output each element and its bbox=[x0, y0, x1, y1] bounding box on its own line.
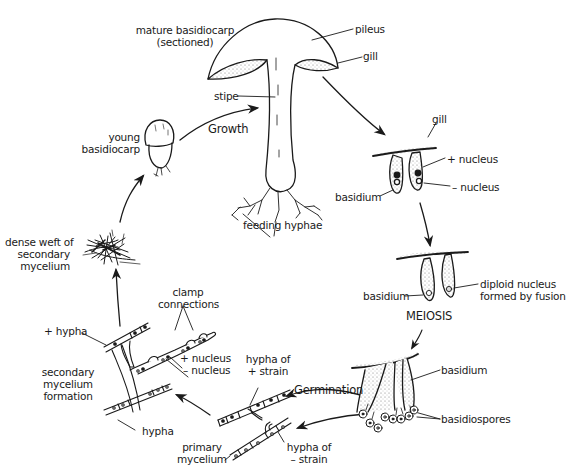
basidia-with-spores bbox=[352, 352, 440, 419]
label-line: hypha of bbox=[283, 441, 335, 453]
label-secondary-mycelium-formation: secondary mycelium formation bbox=[38, 366, 98, 402]
label-line: mycelium bbox=[38, 378, 98, 390]
to-gill-arrow bbox=[323, 77, 384, 134]
label-line: formation bbox=[38, 390, 98, 402]
label-plus-nucleus: + nucleus bbox=[447, 153, 498, 165]
label-hypha-minus-strain: hypha of – strain bbox=[283, 441, 335, 465]
label-meiosis: MEIOSIS bbox=[406, 310, 452, 322]
dense-weft bbox=[83, 230, 140, 265]
label-hypha-plus-strain: hypha of + strain bbox=[242, 353, 294, 377]
label-line: – strain bbox=[283, 453, 335, 465]
label-mature-basidiocarp: mature basidiocarp (sectioned) bbox=[135, 24, 235, 48]
label-line: hypha of bbox=[242, 353, 294, 365]
label-sec-plus-nucleus: + nucleus bbox=[180, 352, 231, 364]
to-weft-arrow bbox=[116, 270, 120, 326]
label-dense-weft: dense weft of secondary mycelium bbox=[5, 236, 70, 272]
label-diploid-nucleus: diploid nucleus formed by fusion bbox=[480, 278, 566, 302]
germination-arrow-2 bbox=[298, 414, 366, 428]
label-growth: Growth bbox=[208, 123, 248, 135]
label-gill-cap: gill bbox=[363, 50, 378, 62]
label-line: mycelium bbox=[5, 260, 70, 272]
label-sec-minus-nucleus: – nucleus bbox=[183, 364, 230, 376]
label-line: clamp bbox=[158, 286, 218, 298]
label-line: + strain bbox=[242, 365, 294, 377]
to-young-arrow bbox=[120, 176, 143, 222]
label-clamp-connections: clamp connections bbox=[158, 286, 218, 310]
label-plus-hypha: + hypha bbox=[44, 325, 87, 337]
label-primary-mycelium: primary mycelium bbox=[176, 441, 228, 465]
label-basidium-1: basidium bbox=[335, 191, 381, 203]
label-line: basidiocarp bbox=[60, 143, 140, 155]
label-minus-nucleus: – nucleus bbox=[452, 181, 499, 193]
meiosis-arrow bbox=[412, 330, 422, 348]
label-young-basidiocarp: young basidiocarp bbox=[60, 131, 140, 155]
label-line: mature basidiocarp bbox=[135, 24, 235, 36]
label-line: mycelium bbox=[176, 453, 228, 465]
label-line: diploid nucleus bbox=[480, 278, 566, 290]
label-hypha: hypha bbox=[142, 425, 174, 437]
to-secondary-arrow bbox=[177, 395, 210, 415]
label-pileus: pileus bbox=[355, 23, 385, 35]
label-line: (sectioned) bbox=[135, 36, 235, 48]
label-basidium-2: basidium bbox=[363, 290, 409, 302]
label-line: secondary bbox=[5, 248, 70, 260]
young-basidiocarp bbox=[145, 120, 174, 176]
primary-mycelium bbox=[218, 388, 292, 460]
label-line: formed by fusion bbox=[480, 290, 566, 302]
label-line: primary bbox=[176, 441, 228, 453]
label-line: dense weft of bbox=[5, 236, 70, 248]
label-gill-section: gill bbox=[432, 113, 447, 125]
label-basidiospores: basidiospores bbox=[441, 413, 510, 425]
label-basidium-3: basidium bbox=[441, 364, 487, 376]
label-germination: Germination bbox=[294, 384, 363, 396]
label-feeding-hyphae: feeding hyphae bbox=[243, 219, 322, 231]
label-line: secondary bbox=[38, 366, 98, 378]
to-diploid-arrow bbox=[420, 203, 430, 245]
label-stipe: stipe bbox=[214, 90, 239, 102]
label-line: connections bbox=[158, 298, 218, 310]
label-line: young bbox=[60, 131, 140, 143]
